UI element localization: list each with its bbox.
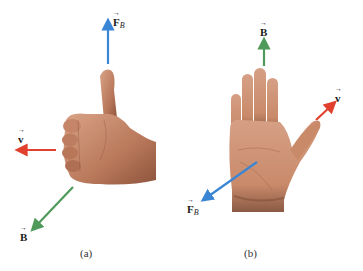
- hand-rule-figure: FB v B (a) B v FB (b): [0, 0, 363, 271]
- label-force-a: FB: [113, 17, 125, 30]
- panel-b-hand: [229, 68, 320, 212]
- label-velocity-a: v: [18, 134, 24, 145]
- label-velocity-b: v: [335, 93, 341, 104]
- label-field-b: B: [260, 27, 267, 38]
- caption-a: (a): [80, 247, 92, 259]
- field-arrow-a: [35, 187, 73, 227]
- label-field-a: B: [20, 232, 27, 243]
- label-force-b: FB: [187, 204, 199, 217]
- velocity-arrow-b: [316, 105, 332, 120]
- panel-a-hand: [62, 70, 156, 185]
- caption-b: (b): [244, 247, 257, 259]
